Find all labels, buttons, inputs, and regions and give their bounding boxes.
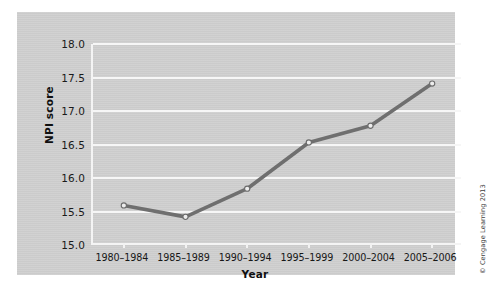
y-tick-label: 16.0 xyxy=(25,173,85,184)
x-axis-title: Year xyxy=(17,268,455,280)
data-point-marker xyxy=(121,203,126,208)
series-markers xyxy=(121,81,435,220)
x-tick-mark xyxy=(431,243,433,248)
x-tick-mark xyxy=(370,243,372,248)
x-tick-mark xyxy=(246,243,248,248)
x-axis-title-text: Year xyxy=(242,268,269,280)
y-tick-label: 15.0 xyxy=(25,240,85,251)
series-svg xyxy=(93,44,463,245)
y-tick-label: 15.5 xyxy=(25,206,85,217)
data-point-marker xyxy=(183,214,188,219)
x-tick-mark xyxy=(185,243,187,248)
y-tick-label: 17.0 xyxy=(25,106,85,117)
chart-figure-panel: NPI score Year © Cengage Learning 2013 1… xyxy=(17,12,455,275)
y-tick-label: 18.0 xyxy=(25,39,85,50)
data-point-marker xyxy=(430,81,435,86)
copyright-credit: © Cengage Learning 2013 xyxy=(479,184,487,274)
x-tick-mark xyxy=(308,243,310,248)
series-line-npi-score xyxy=(124,84,432,217)
data-point-marker xyxy=(306,140,311,145)
data-point-marker xyxy=(245,186,250,191)
y-tick-label: 17.5 xyxy=(25,72,85,83)
plot-area xyxy=(91,44,461,245)
data-point-marker xyxy=(368,123,373,128)
x-tick-mark xyxy=(123,243,125,248)
x-tick-label: 2005–2006 xyxy=(388,252,472,263)
y-tick-label: 16.5 xyxy=(25,139,85,150)
